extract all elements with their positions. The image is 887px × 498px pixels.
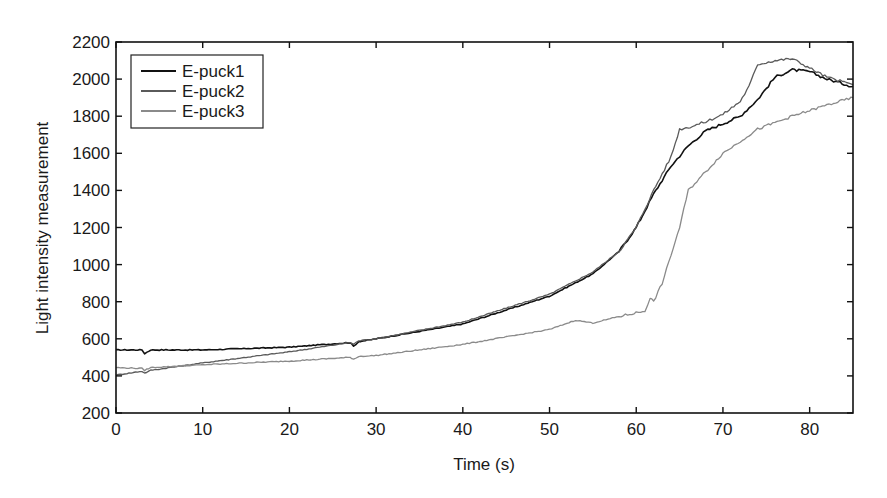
y-tick-label: 2000: [72, 70, 110, 89]
x-tick-label: 0: [111, 420, 120, 439]
x-tick-label: 70: [713, 420, 732, 439]
series-line-epuck3: [116, 97, 853, 371]
y-tick-label: 600: [82, 330, 110, 349]
legend-label: E-puck2: [182, 82, 244, 101]
y-tick-label: 1600: [72, 144, 110, 163]
x-tick-label: 50: [540, 420, 559, 439]
y-axis-label: Light intensity measurement: [33, 121, 52, 334]
x-tick-label: 30: [367, 420, 386, 439]
x-tick-label: 80: [800, 420, 819, 439]
x-tick-label: 10: [193, 420, 212, 439]
y-tick-label: 400: [82, 367, 110, 386]
line-chart: 0102030405060708020040060080010001200140…: [0, 0, 887, 498]
y-tick-label: 1000: [72, 256, 110, 275]
legend: E-puck1 E-puck2 E-puck3: [131, 55, 263, 128]
y-tick-label: 2200: [72, 33, 110, 52]
x-tick-label: 20: [280, 420, 299, 439]
x-tick-label: 40: [453, 420, 472, 439]
legend-label: E-puck3: [182, 102, 244, 121]
y-tick-label: 200: [82, 404, 110, 423]
y-tick-label: 1800: [72, 107, 110, 126]
x-tick-label: 60: [627, 420, 646, 439]
y-tick-label: 1200: [72, 219, 110, 238]
y-tick-label: 800: [82, 293, 110, 312]
y-tick-label: 1400: [72, 181, 110, 200]
x-axis-label: Time (s): [453, 455, 515, 474]
legend-label: E-puck1: [182, 62, 244, 81]
